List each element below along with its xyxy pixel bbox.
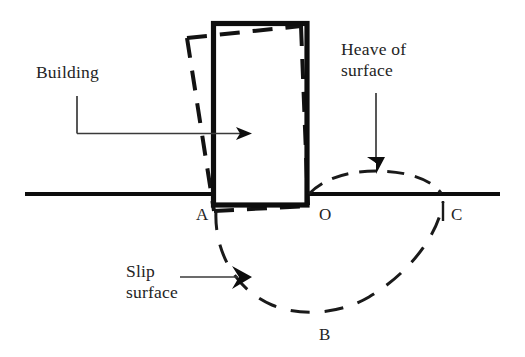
tilted-building-top-edge bbox=[187, 26, 301, 38]
tilted-building-left-edge bbox=[187, 38, 214, 211]
point-label-c: C bbox=[451, 205, 462, 224]
slip-annotation-label-line2: surface bbox=[126, 282, 178, 302]
slip-annotation-label-line1: Slip bbox=[126, 261, 155, 281]
heave-pointer-arrow bbox=[367, 93, 385, 174]
heave-arc bbox=[309, 171, 441, 194]
building-annotation-label: Building bbox=[36, 62, 99, 82]
slip-surface-figure: Building Heave of surface Slip surface A… bbox=[0, 0, 525, 357]
building-outline-rect bbox=[214, 24, 308, 206]
point-label-a: A bbox=[196, 205, 209, 224]
building-upright-solid bbox=[214, 24, 308, 206]
point-label-b: B bbox=[319, 325, 330, 344]
point-label-o: O bbox=[319, 205, 331, 224]
heave-annotation-label-line1: Heave of bbox=[341, 39, 406, 59]
technical-diagram: Building Heave of surface Slip surface A… bbox=[0, 0, 525, 357]
tilt-direction-arrow bbox=[77, 127, 252, 140]
heave-arc-group bbox=[309, 171, 441, 194]
building-tilted-dashed bbox=[187, 26, 308, 211]
slip-pointer-arrow bbox=[180, 266, 252, 289]
heave-annotation-label-line2: surface bbox=[341, 60, 393, 80]
